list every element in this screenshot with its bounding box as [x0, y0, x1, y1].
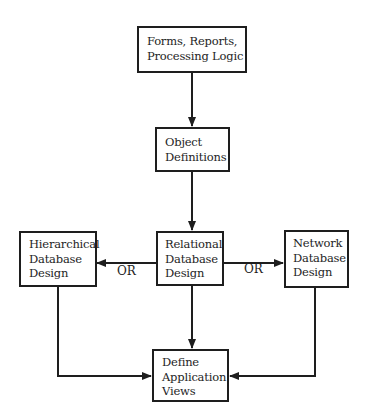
node-text: Processing Logic: [147, 49, 241, 64]
node-text: Object: [165, 135, 224, 150]
node-forms-reports-processing-logic: Forms, Reports, Processing Logic: [137, 26, 247, 73]
database-design-flowchart: Forms, Reports, Processing Logic Object …: [0, 0, 365, 419]
node-define-application-views: Define Application Views: [152, 349, 229, 402]
node-text: Design: [29, 266, 91, 281]
node-text: Database: [165, 252, 218, 267]
node-relational-database-design: Relational Database Design: [156, 231, 224, 286]
node-text: Design: [165, 266, 218, 281]
edge-label-or-right: OR: [244, 262, 263, 276]
arrow-hierarchical-to-views: [58, 286, 151, 376]
node-text: Views: [162, 384, 223, 399]
node-object-definitions: Object Definitions: [155, 127, 230, 172]
node-hierarchical-database-design: Hierarchical Database Design: [19, 231, 97, 287]
node-text: Network: [293, 236, 343, 251]
node-text: Application: [162, 370, 223, 385]
node-text: Database: [293, 251, 343, 266]
node-network-database-design: Network Database Design: [284, 230, 349, 288]
node-text: Definitions: [165, 150, 224, 165]
node-text: Database: [29, 252, 91, 267]
arrow-network-to-views: [230, 288, 315, 376]
node-text: Forms, Reports,: [147, 34, 241, 49]
node-text: Relational: [165, 237, 218, 252]
edge-label-or-left: OR: [117, 264, 136, 278]
node-text: Hierarchical: [29, 237, 91, 252]
node-text: Define: [162, 355, 223, 370]
node-text: Design: [293, 265, 343, 280]
